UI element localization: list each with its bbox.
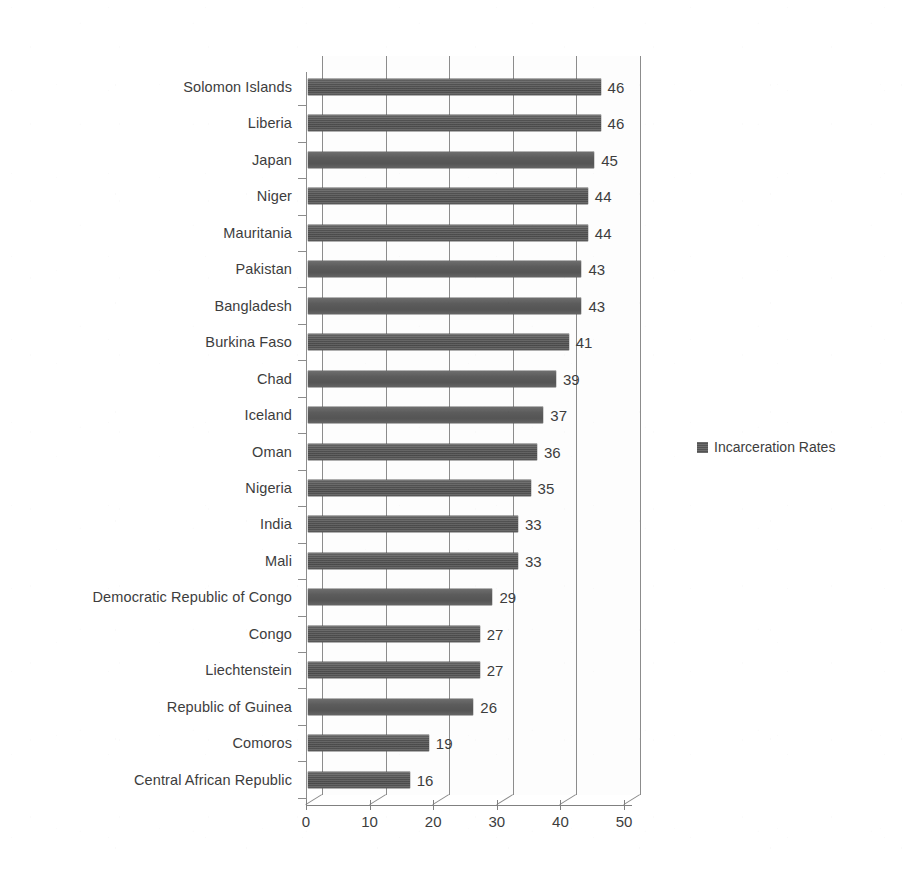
depth-connector-0 (305, 794, 322, 805)
bar-value-label: 41 (576, 334, 593, 351)
legend-label: Incarceration Rates (714, 440, 835, 454)
category-tick (298, 761, 306, 762)
bar-value-label: 27 (487, 625, 504, 642)
plot-area: 0102030405046464544444343413937363533332… (0, 0, 911, 874)
bar (308, 589, 492, 606)
value-tick-50 (624, 800, 625, 810)
bar-value-label: 37 (550, 407, 567, 424)
bar-value-label: 33 (525, 552, 542, 569)
category-tick (298, 506, 306, 507)
category-tick (298, 688, 306, 689)
category-axis-front-line (306, 72, 307, 805)
category-tick (298, 397, 306, 398)
category-tick (298, 360, 306, 361)
bar (308, 188, 588, 205)
bar-value-label: 19 (436, 735, 453, 752)
bar (308, 662, 480, 679)
bar (308, 735, 429, 752)
category-tick (298, 470, 306, 471)
bar (308, 698, 473, 715)
depth-connector-50 (623, 794, 640, 805)
bar (308, 516, 518, 533)
category-tick (298, 543, 306, 544)
bar-value-label: 44 (595, 224, 612, 241)
bar-value-label: 46 (608, 79, 625, 96)
category-tick (298, 579, 306, 580)
gridline-50 (640, 56, 641, 795)
value-tick-label-10: 10 (361, 813, 378, 830)
bar-value-label: 39 (563, 370, 580, 387)
category-tick (298, 798, 306, 799)
bar-value-label: 26 (480, 698, 497, 715)
depth-connector-10 (369, 794, 386, 805)
value-tick-label-30: 30 (488, 813, 505, 830)
depth-connector-30 (496, 794, 513, 805)
category-tick (298, 287, 306, 288)
bar (308, 224, 588, 241)
depth-connector-40 (560, 794, 577, 805)
value-tick-30 (497, 800, 498, 810)
bar (308, 79, 601, 96)
value-tick-40 (560, 800, 561, 810)
bar-value-label: 45 (601, 151, 618, 168)
chart-legend: Incarceration Rates (697, 440, 835, 454)
bar (308, 297, 581, 314)
bar (308, 407, 543, 424)
value-tick-label-0: 0 (302, 813, 310, 830)
bar (308, 443, 537, 460)
bar-value-label: 16 (417, 771, 434, 788)
bar-value-label: 29 (499, 589, 516, 606)
depth-connector-20 (433, 794, 450, 805)
bar (308, 261, 581, 278)
bar (308, 115, 601, 132)
category-tick (298, 324, 306, 325)
value-tick-label-50: 50 (616, 813, 633, 830)
legend-swatch-incarceration-rates (697, 442, 708, 453)
bar (308, 625, 480, 642)
category-tick (298, 433, 306, 434)
bar-value-label: 46 (608, 115, 625, 132)
bar-value-label: 35 (538, 479, 555, 496)
bar-value-label: 43 (588, 261, 605, 278)
category-tick (298, 725, 306, 726)
category-tick (298, 652, 306, 653)
value-axis-line (306, 805, 632, 806)
category-tick (298, 178, 306, 179)
category-tick (298, 616, 306, 617)
bar-value-label: 36 (544, 443, 561, 460)
bar (308, 151, 594, 168)
category-tick (298, 251, 306, 252)
bar (308, 370, 556, 387)
bar-value-label: 44 (595, 188, 612, 205)
bar (308, 552, 518, 569)
bar-chart: Solomon IslandsLiberiaJapanNigerMauritan… (0, 0, 911, 874)
bar (308, 771, 410, 788)
value-tick-10 (370, 800, 371, 810)
bar-value-label: 43 (588, 297, 605, 314)
value-tick-label-20: 20 (425, 813, 442, 830)
category-tick (298, 142, 306, 143)
bar-value-label: 27 (487, 662, 504, 679)
value-tick-0 (306, 800, 307, 810)
value-tick-label-40: 40 (552, 813, 569, 830)
category-tick (298, 215, 306, 216)
bar (308, 334, 569, 351)
value-tick-20 (433, 800, 434, 810)
bar-value-label: 33 (525, 516, 542, 533)
category-tick (298, 105, 306, 106)
bar (308, 479, 531, 496)
